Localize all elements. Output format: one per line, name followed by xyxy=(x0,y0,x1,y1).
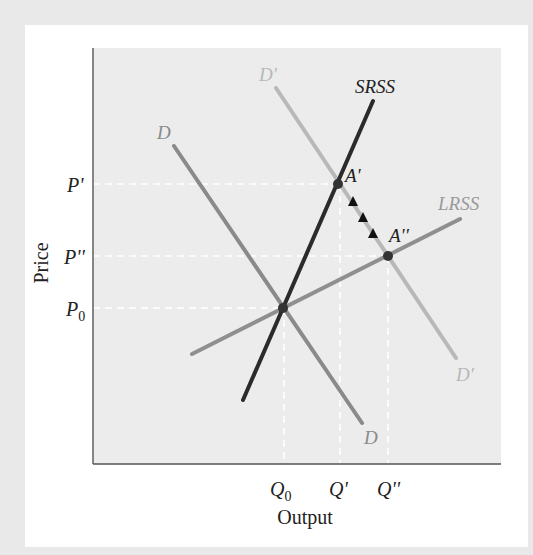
point-equilibrium-0 xyxy=(278,303,288,313)
label-a-double-prime: A'' xyxy=(387,225,410,246)
tick-p0: P0 xyxy=(65,298,85,324)
label-a-prime: A' xyxy=(343,165,362,186)
chart: D D D' D' SRSS LRSS A' A'' P' P'' P0 Q0 … xyxy=(0,0,533,555)
tick-q-prime: Q' xyxy=(329,478,348,500)
tick-q0: Q0 xyxy=(270,478,291,504)
label-d-bottom: D xyxy=(363,427,378,448)
tick-q-double-prime: Q'' xyxy=(377,478,401,500)
y-axis-title: Price xyxy=(30,242,52,283)
label-lrss: LRSS xyxy=(437,193,480,214)
x-axis-title: Output xyxy=(277,506,333,529)
tick-p-double-prime: P'' xyxy=(63,246,85,268)
tick-p-prime: P' xyxy=(66,174,84,196)
label-d-top: D xyxy=(156,122,171,143)
label-srss: SRSS xyxy=(355,76,396,97)
point-a-prime xyxy=(333,179,343,189)
point-a-double-prime xyxy=(383,251,393,261)
label-d-prime-top: D' xyxy=(258,64,278,85)
label-d-prime-bottom: D' xyxy=(455,364,475,385)
